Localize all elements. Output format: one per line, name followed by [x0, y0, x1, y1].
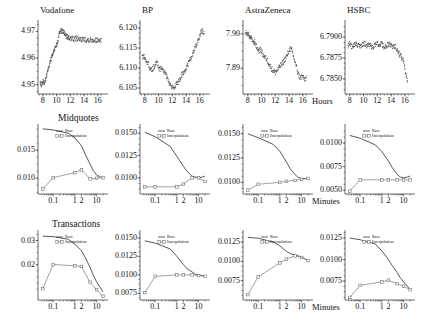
y-tick-label: 0.0125 [207, 153, 240, 162]
panel-title: AstraZeneca [245, 5, 290, 15]
y-tick-label: 0.0125 [207, 237, 240, 246]
row-title-transactions: Transactions [52, 219, 100, 229]
legend-label-interpolation: Interpolation [270, 133, 292, 138]
legend-label-interpolation: Interpolation [65, 133, 87, 138]
y-tick-label: 0.0100 [309, 255, 342, 264]
x-tick-label: 0.1 [350, 196, 370, 205]
x-tick-label: 10 [189, 196, 209, 205]
y-tick-label: 0.0125 [104, 151, 137, 160]
x-tick-label: 16 [395, 96, 415, 105]
y-tick-label: 0.03 [2, 236, 35, 245]
legend-label-interpolation: Interpolation [372, 239, 394, 244]
panel-title: Vodafone [40, 5, 74, 15]
x-tick-label: 10 [394, 196, 414, 205]
x-tick-label: 10 [394, 302, 414, 311]
legend-label-interpolation: Interpolation [270, 239, 292, 244]
y-tick-label: 4.97 [2, 26, 35, 35]
x-tick-label: 0.1 [145, 302, 165, 311]
y-tick-label: 0.0100 [104, 270, 137, 279]
x-tick-label: 16 [88, 96, 108, 105]
y-tick-label: 0.0125 [104, 251, 137, 260]
y-tick-label: 0.0100 [207, 177, 240, 186]
y-tick-label: 6.7900 [309, 32, 342, 41]
x-tick-label: 0.1 [248, 302, 268, 311]
axis-unit-label: Minutes [312, 196, 340, 206]
axis-unit-label: Hours [312, 96, 333, 106]
y-tick-label: 0.010 [2, 173, 35, 182]
x-tick-label: 16 [190, 96, 210, 105]
x-tick-label: 0.1 [145, 196, 165, 205]
y-tick-label: 0.015 [2, 145, 35, 154]
y-tick-label: 0.0150 [207, 129, 240, 138]
y-tick-label: 6.105 [104, 83, 137, 92]
y-tick-label: 0.0050 [309, 185, 342, 194]
x-tick-label: 10 [292, 196, 312, 205]
legend-label-interpolation: Interpolation [65, 239, 87, 244]
y-tick-label: 6.110 [104, 63, 137, 72]
y-tick-label: 0.0100 [309, 138, 342, 147]
y-tick-label: 4.95 [2, 80, 35, 89]
y-tick-label: 0.0125 [309, 233, 342, 242]
panel-title: BP [142, 5, 153, 15]
figure-panel-grid: 4.954.964.97810121416Vodafone6.1056.1106… [0, 0, 425, 331]
panel-title: HSBC [347, 5, 371, 15]
x-tick-label: 10 [189, 302, 209, 311]
y-tick-label: 4.96 [2, 53, 35, 62]
y-tick-label: 0.0150 [104, 128, 137, 137]
x-tick-label: 10 [87, 302, 107, 311]
x-tick-label: 10 [87, 196, 107, 205]
y-tick-label: 0.0075 [309, 276, 342, 285]
y-tick-label: 6.115 [104, 43, 137, 52]
y-tick-label: 0.0150 [104, 233, 137, 242]
y-tick-label: 6.7850 [309, 74, 342, 83]
legend-label-interpolation: Interpolation [372, 133, 394, 138]
y-tick-label: 6.7875 [309, 53, 342, 62]
x-tick-label: 0.1 [248, 196, 268, 205]
y-tick-label: 7.90 [207, 29, 240, 38]
legend-label-interpolation: Interpolation [167, 239, 189, 244]
axis-unit-label: Minutes [312, 302, 340, 312]
y-tick-label: 0.0075 [104, 288, 137, 297]
y-tick-label: 0.0075 [207, 276, 240, 285]
y-tick-label: 0.0100 [207, 256, 240, 265]
x-tick-label: 0.1 [43, 196, 63, 205]
y-tick-label: 0.02 [2, 260, 35, 269]
y-tick-label: 6.120 [104, 23, 137, 32]
x-tick-label: 0.1 [43, 302, 63, 311]
x-tick-label: 10 [292, 302, 312, 311]
y-tick-label: 7.89 [207, 63, 240, 72]
x-tick-label: 0.1 [350, 302, 370, 311]
row-title-midquotes: Midquotes [58, 113, 99, 123]
x-tick-label: 16 [293, 96, 313, 105]
y-tick-label: 0.0100 [104, 173, 137, 182]
legend-label-interpolation: Interpolation [167, 133, 189, 138]
y-tick-label: 0.0075 [309, 162, 342, 171]
